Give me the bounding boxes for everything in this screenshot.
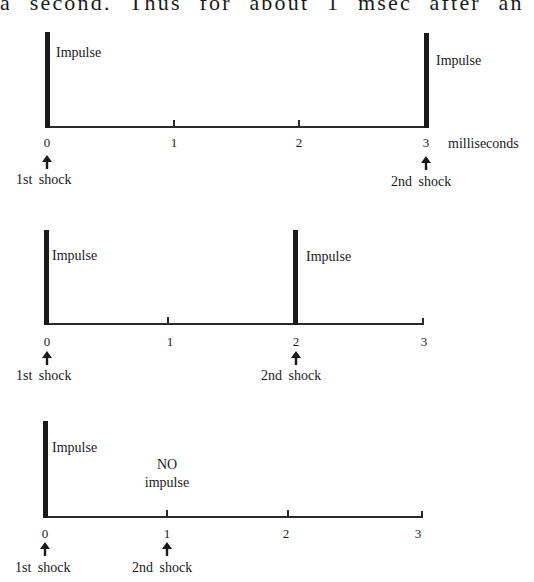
first-shock-label: 1st shock: [15, 560, 71, 576]
no-impulse-label-line2: impulse: [137, 475, 197, 491]
impulse-bar-first: [43, 421, 48, 518]
tick-label-1: 1: [157, 527, 177, 541]
tick-label-2: 2: [276, 527, 296, 541]
tick-3ms: [421, 511, 423, 518]
no-impulse-label-line1: NO: [137, 457, 197, 473]
impulse-label-first: Impulse: [52, 440, 97, 456]
panel-shock-1ms: Impulse NO impulse 0 1 2 3 1st shock 2nd…: [0, 0, 534, 582]
tick-1ms: [166, 510, 168, 517]
tick-label-3: 3: [408, 527, 428, 541]
shock-arrow-second: [161, 542, 173, 556]
second-shock-label: 2nd shock: [132, 560, 192, 576]
tick-2ms: [287, 510, 289, 517]
shock-arrow-first: [39, 542, 51, 556]
time-axis: [44, 516, 423, 518]
tick-label-0: 0: [35, 527, 55, 541]
